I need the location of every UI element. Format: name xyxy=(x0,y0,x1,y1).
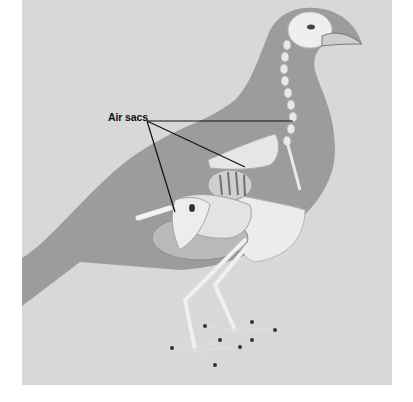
claws xyxy=(170,320,277,367)
feet xyxy=(172,322,275,365)
bird-illustration xyxy=(0,0,413,402)
bird-air-sac-diagram: Air sacs xyxy=(0,0,413,402)
bird-silhouette xyxy=(22,8,362,306)
air-sacs-label: Air sacs xyxy=(108,111,148,123)
